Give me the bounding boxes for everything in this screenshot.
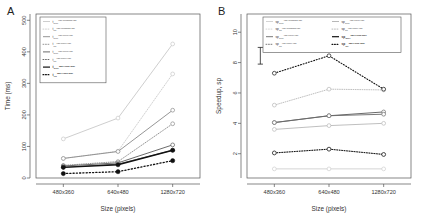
data-point	[61, 137, 65, 141]
legend: spoverx86-Windows-x86spoverx86-Linux-x86…	[263, 17, 401, 52]
data-point	[382, 167, 386, 171]
data-point	[272, 103, 276, 107]
data-point	[116, 170, 120, 174]
y-tick-label: 6	[232, 91, 238, 94]
data-point	[272, 128, 276, 132]
y-tick-label: 10	[232, 29, 238, 35]
data-point	[382, 87, 386, 91]
panel-a: A 0100200300400500480x360640x4801280x720…	[0, 0, 211, 222]
x-tick-label: 480x360	[264, 189, 285, 195]
x-tick-label: 1280x720	[371, 189, 396, 195]
data-point	[272, 121, 276, 125]
error-bar	[258, 47, 263, 64]
data-point	[272, 71, 276, 75]
panel-a-plot: 0100200300400500480x360640x4801280x720Si…	[0, 0, 211, 222]
y-tick-label: 2	[232, 152, 238, 155]
y-tick-label: 200	[21, 110, 27, 119]
series-group	[272, 54, 385, 171]
series-line	[63, 124, 172, 166]
data-point	[327, 54, 331, 58]
data-point	[116, 150, 120, 154]
data-point	[327, 87, 331, 91]
y-tick-label: 8	[232, 61, 238, 64]
data-point	[171, 108, 175, 112]
x-axis-title: Size (pixels)	[101, 205, 136, 213]
data-point	[327, 114, 331, 118]
y-tick-label: 4	[232, 122, 238, 125]
data-point	[382, 112, 386, 116]
y-tick-label: 300	[21, 79, 27, 88]
y-tick-label: 500	[21, 16, 27, 25]
figure-root: A 0100200300400500480x360640x4801280x720…	[0, 0, 422, 222]
data-point	[171, 148, 175, 152]
y-axis-title: Speedup, sp	[215, 78, 223, 114]
data-point	[61, 157, 65, 161]
data-point	[382, 153, 386, 157]
data-point	[171, 42, 175, 46]
data-point	[61, 171, 65, 175]
series-line	[274, 56, 383, 89]
y-tick-label: 100	[21, 142, 27, 151]
y-tick-label: 0	[21, 176, 27, 179]
data-point	[171, 72, 175, 76]
data-point	[116, 116, 120, 120]
data-point	[61, 165, 65, 169]
data-point	[327, 147, 331, 151]
x-axis-title: Size (pixels)	[312, 205, 347, 213]
legend: toverx86-Windows-x86trefx86-Windows-x86t…	[40, 17, 106, 83]
data-point	[272, 151, 276, 155]
x-tick-label: 640x480	[318, 189, 339, 195]
data-point	[327, 167, 331, 171]
data-point	[327, 124, 331, 128]
x-tick-label: 640x480	[107, 189, 128, 195]
data-point	[382, 121, 386, 125]
panel-b-plot: 246810480x360640x4801280x720Size (pixels…	[211, 0, 422, 222]
panel-b: B 246810480x360640x4801280x720Size (pixe…	[211, 0, 422, 222]
data-point	[171, 159, 175, 163]
data-point	[171, 143, 175, 147]
data-point	[272, 167, 276, 171]
x-tick-label: 480x360	[53, 189, 74, 195]
data-point	[116, 163, 120, 167]
series-line	[274, 89, 383, 105]
y-axis-title: Time (ms)	[4, 82, 12, 111]
x-tick-label: 1280x720	[160, 189, 185, 195]
data-point	[171, 122, 175, 126]
y-tick-label: 400	[21, 47, 27, 56]
